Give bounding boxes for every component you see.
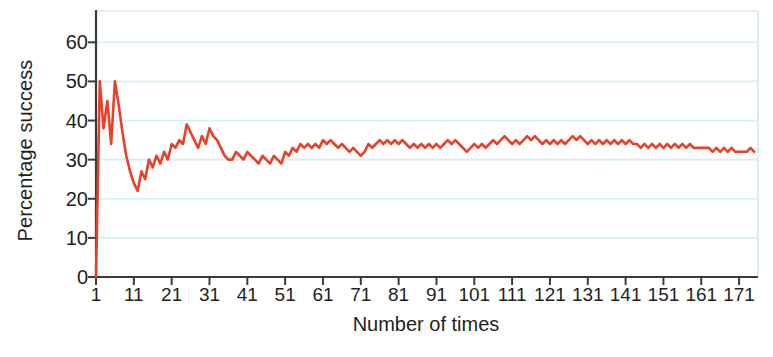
gridlines-group: [96, 11, 758, 238]
x-tick-label-31: 31: [199, 284, 220, 306]
x-tick-label-41: 41: [237, 284, 258, 306]
x-tick-label-161: 161: [685, 284, 717, 306]
x-tick-label-141: 141: [610, 284, 642, 306]
x-tick-label-171: 171: [723, 284, 755, 306]
chart-container: Percentage success 0102030405060 1112131…: [0, 0, 773, 357]
axis-ticks-group: [88, 42, 739, 285]
x-tick-label-131: 131: [572, 284, 604, 306]
x-tick-label-11: 11: [124, 284, 144, 306]
x-tick-label-1: 1: [91, 284, 102, 306]
x-tick-label-21: 21: [161, 284, 182, 306]
x-tick-label-51: 51: [275, 284, 296, 306]
x-tick-label-81: 81: [388, 284, 409, 306]
x-tick-label-151: 151: [648, 284, 680, 306]
x-tick-label-101: 101: [458, 284, 490, 306]
data-series-line: [96, 81, 754, 277]
x-tick-label-111: 111: [498, 284, 527, 306]
x-tick-label-121: 121: [534, 284, 566, 306]
x-axis-title-label: Number of times: [96, 313, 756, 336]
x-tick-label-71: 71: [350, 284, 371, 306]
x-tick-label-91: 91: [426, 284, 447, 306]
x-tick-label-61: 61: [312, 284, 333, 306]
